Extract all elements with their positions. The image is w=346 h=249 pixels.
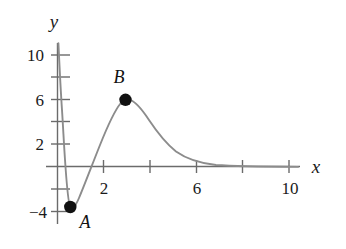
point-a-marker bbox=[64, 201, 76, 213]
point-b-label: B bbox=[114, 67, 125, 87]
graph-figure: y x A B 10 6 2 −4 2 6 10 bbox=[0, 0, 346, 249]
y-tick-label-minus4: −4 bbox=[29, 203, 48, 222]
x-tick-label-6: 6 bbox=[193, 179, 202, 198]
plot-canvas: y x A B 10 6 2 −4 2 6 10 bbox=[0, 0, 346, 249]
x-axis-label: x bbox=[311, 156, 321, 177]
y-tick-label-2: 2 bbox=[36, 135, 45, 154]
y-axis-label: y bbox=[48, 11, 59, 32]
function-curve bbox=[58, 43, 298, 207]
point-a-label: A bbox=[79, 212, 92, 232]
x-tick-label-2: 2 bbox=[100, 179, 109, 198]
point-b-marker bbox=[119, 94, 131, 106]
y-tick-label-10: 10 bbox=[27, 46, 44, 65]
x-tick-label-10: 10 bbox=[282, 179, 299, 198]
y-tick-label-6: 6 bbox=[36, 91, 45, 110]
